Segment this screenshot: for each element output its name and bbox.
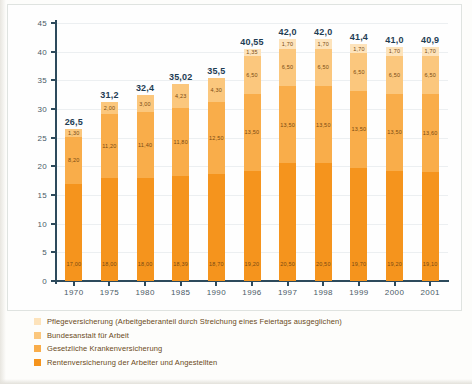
bar-segment: 19,10 bbox=[422, 172, 439, 282]
segment-value-label: 6,50 bbox=[282, 64, 294, 70]
x-tick bbox=[322, 281, 324, 286]
bar-total-label: 42,0 bbox=[314, 27, 332, 37]
segment-value-label: 1,70 bbox=[282, 41, 294, 47]
y-tick bbox=[51, 251, 56, 253]
bar: 19,7013,506,501,7041,4 bbox=[350, 44, 367, 281]
page-bottom-shadow bbox=[0, 379, 472, 384]
segment-value-label: 6,50 bbox=[353, 69, 365, 75]
bar-segment: 8,20 bbox=[65, 137, 82, 184]
bar-segment: 1,70 bbox=[386, 47, 403, 57]
bar-segment: 13,60 bbox=[422, 94, 439, 172]
segment-value-label: 18,70 bbox=[209, 261, 224, 267]
segment-value-label: 20,50 bbox=[280, 261, 295, 267]
segment-value-label: 18,39 bbox=[173, 261, 188, 267]
legend-swatch bbox=[34, 318, 41, 325]
y-tick bbox=[51, 79, 56, 81]
legend-label: Gesetzliche Krankenversicherung bbox=[47, 344, 162, 353]
x-tick-label: 1975 bbox=[100, 288, 119, 297]
bar-total-label: 40,55 bbox=[240, 37, 264, 47]
y-tick-label: 10 bbox=[38, 219, 48, 228]
bar-segment: 12,50 bbox=[208, 102, 225, 174]
bar-total-label: 32,4 bbox=[136, 83, 154, 93]
bar-total-label: 40,9 bbox=[421, 35, 439, 45]
bar-segment: 11,80 bbox=[172, 108, 189, 176]
legend-label: Rentenversicherung der Arbeiter und Ange… bbox=[47, 358, 217, 367]
y-tick bbox=[51, 137, 56, 139]
x-tick-label: 1997 bbox=[278, 288, 297, 297]
segment-value-label: 13,50 bbox=[352, 126, 367, 132]
bar-segment: 3,00 bbox=[137, 95, 154, 112]
y-tick bbox=[51, 165, 56, 167]
bar-segment: 6,50 bbox=[279, 49, 296, 86]
segment-value-label: 1,70 bbox=[424, 48, 436, 54]
bar-segment: 6,50 bbox=[350, 53, 367, 90]
bar: 18,0011,403,0032,4 bbox=[137, 95, 154, 281]
x-tick bbox=[73, 281, 75, 286]
y-tick bbox=[51, 280, 56, 282]
y-tick bbox=[51, 223, 56, 225]
y-axis-line bbox=[55, 20, 57, 284]
bar-total-label: 41,0 bbox=[385, 35, 403, 45]
bar-total-label: 26,5 bbox=[65, 117, 83, 127]
bar-segment: 19,70 bbox=[350, 168, 367, 281]
y-tick-label: 45 bbox=[38, 19, 48, 28]
segment-value-label: 11,80 bbox=[174, 139, 188, 145]
x-tick-label: 2001 bbox=[420, 288, 439, 297]
x-tick-label: 1996 bbox=[242, 288, 261, 297]
bar-segment: 13,50 bbox=[279, 86, 296, 163]
bar-segment: 18,70 bbox=[208, 174, 225, 281]
segment-value-label: 12,50 bbox=[209, 135, 224, 141]
y-tick-label: 5 bbox=[42, 248, 47, 257]
chart-panel: 051015202530354045 17,008,201,3026,518,0… bbox=[7, 4, 462, 311]
segment-value-label: 20,50 bbox=[316, 261, 331, 267]
bar-segment: 13,50 bbox=[315, 86, 332, 163]
bar-segment: 1,70 bbox=[279, 39, 296, 49]
x-tick-label: 1998 bbox=[314, 288, 333, 297]
y-tick-label: 25 bbox=[38, 133, 48, 142]
x-tick-label: 1970 bbox=[64, 288, 83, 297]
bar-segment: 1,70 bbox=[350, 44, 367, 54]
y-tick-label: 0 bbox=[42, 277, 47, 286]
segment-value-label: 1,70 bbox=[353, 46, 365, 52]
x-tick bbox=[394, 281, 396, 286]
y-tick bbox=[51, 108, 56, 110]
bar-segment: 1,30 bbox=[65, 129, 82, 136]
segment-value-label: 6,50 bbox=[424, 72, 436, 78]
bar-segment: 20,50 bbox=[315, 163, 332, 281]
x-tick bbox=[180, 281, 182, 286]
bar-segment: 4,30 bbox=[208, 78, 225, 103]
segment-value-label: 1,30 bbox=[68, 130, 80, 136]
segment-value-label: 13,50 bbox=[280, 122, 295, 128]
segment-value-label: 6,50 bbox=[246, 72, 258, 78]
bar-total-label: 35,02 bbox=[169, 72, 193, 82]
bar-segment: 4,23 bbox=[172, 84, 189, 108]
bar-segment: 18,00 bbox=[137, 178, 154, 281]
segment-value-label: 1,70 bbox=[318, 41, 330, 47]
legend-item: Pflegeversicherung (Arbeitgeberanteil du… bbox=[34, 316, 454, 327]
bar: 19,2013,506,501,7041,0 bbox=[386, 47, 403, 281]
legend-label: Bundesanstalt für Arbeit bbox=[47, 331, 129, 340]
bar-segment: 13,50 bbox=[244, 94, 261, 171]
bar-segment: 18,39 bbox=[172, 176, 189, 281]
x-tick bbox=[215, 281, 217, 286]
bar: 18,3911,804,2335,02 bbox=[172, 84, 189, 281]
y-tick-label: 35 bbox=[38, 76, 48, 85]
bar-segment: 18,00 bbox=[101, 178, 118, 281]
segment-value-label: 18,00 bbox=[138, 261, 153, 267]
x-tick-label: 1980 bbox=[135, 288, 154, 297]
segment-value-label: 4,23 bbox=[175, 93, 187, 99]
segment-value-label: 4,30 bbox=[211, 87, 223, 93]
x-tick bbox=[429, 281, 431, 286]
bar-total-label: 35,5 bbox=[207, 66, 225, 76]
plot-area: 051015202530354045 17,008,201,3026,518,0… bbox=[56, 23, 448, 281]
bar-segment: 17,00 bbox=[65, 184, 82, 281]
x-tick-label: 1990 bbox=[207, 288, 226, 297]
x-tick-label: 1999 bbox=[349, 288, 368, 297]
segment-value-label: 13,50 bbox=[245, 129, 260, 135]
segment-value-label: 2,00 bbox=[104, 105, 116, 111]
segment-value-label: 19,70 bbox=[352, 261, 367, 267]
y-tick-label: 30 bbox=[38, 105, 48, 114]
y-tick bbox=[51, 194, 56, 196]
legend-label: Pflegeversicherung (Arbeitgeberanteil du… bbox=[47, 317, 342, 326]
segment-value-label: 1,35 bbox=[246, 49, 258, 55]
